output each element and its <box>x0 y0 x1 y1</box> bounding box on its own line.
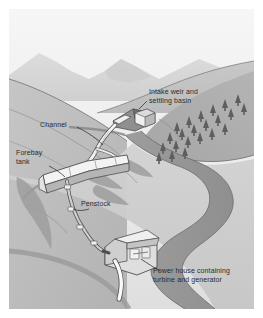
illustration-frame: Intake weir and settling basin Channel F… <box>9 9 254 309</box>
label-channel: Channel <box>40 121 67 129</box>
label-intake-weir-line2: settling basin <box>149 97 191 105</box>
label-forebay-tank-line1: Forebay <box>16 149 42 157</box>
label-intake-weir-line1: Intake weir and <box>149 88 198 96</box>
label-forebay-tank-line2: tank <box>16 158 30 166</box>
label-power-house-line1: Power house containing <box>153 267 230 275</box>
label-penstock: Penstock <box>81 200 111 208</box>
label-power-house-line2: turbine and generator <box>153 276 222 284</box>
hydropower-scheme-illustration <box>9 9 254 309</box>
